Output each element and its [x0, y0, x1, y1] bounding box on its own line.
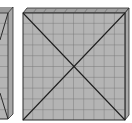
right-bevel [125, 8, 129, 120]
center-slab [23, 8, 129, 120]
prism-diagram [0, 0, 132, 123]
left-slab [0, 7, 13, 119]
